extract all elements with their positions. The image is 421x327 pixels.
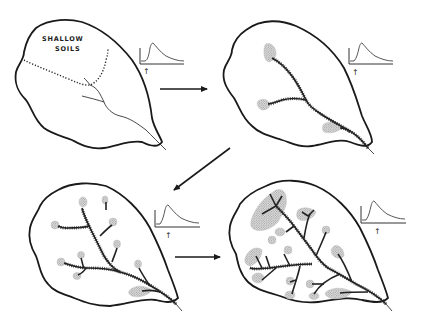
- rain-arrow-icon: ↑: [352, 68, 359, 77]
- arrow-panel2-to-panel3: [174, 148, 230, 190]
- branch: [316, 232, 326, 256]
- source-area: [284, 246, 292, 254]
- tributary-small: [78, 268, 86, 275]
- source-area: [102, 196, 108, 204]
- shallow-label: SHALLOW: [42, 35, 84, 43]
- rain-arrow-icon: ↑: [374, 227, 381, 236]
- panel-1-shallow-soils: SHALLOW SOILS ↑: [15, 20, 184, 150]
- source-area: [78, 252, 85, 259]
- source-area: [114, 240, 121, 248]
- tributary-small: [100, 225, 112, 236]
- west-tributary-line: [250, 264, 312, 269]
- outlet: [386, 304, 392, 311]
- source-area: [285, 291, 295, 299]
- upper-stream: [84, 78, 90, 85]
- outlet: [368, 148, 374, 154]
- watershed-diagram: SHALLOW SOILS ↑ ↑: [0, 0, 421, 327]
- hydrograph-curve: [141, 43, 184, 61]
- source-area: [57, 258, 65, 266]
- source-area: [79, 197, 87, 207]
- panel-2-early-expansion: ↑: [223, 21, 393, 154]
- main-stream: [90, 85, 166, 150]
- hydrograph-axes: [155, 210, 200, 227]
- hydrograph-curve: [362, 201, 405, 220]
- shallow-soils-boundary: [24, 48, 108, 85]
- rain-arrow-icon: ↑: [143, 67, 150, 76]
- source-area: [268, 236, 276, 244]
- source-area: [135, 260, 142, 268]
- hydrograph-axes: [361, 206, 406, 223]
- source-area: [109, 218, 117, 226]
- source-area: [129, 286, 152, 297]
- hydrograph-curve: [350, 43, 393, 61]
- hydrograph-axes: [349, 48, 393, 64]
- source-area: [325, 288, 352, 299]
- source-area: [275, 228, 285, 236]
- west-tributary-line: [268, 99, 306, 105]
- outlet: [176, 304, 182, 311]
- source-area: [252, 273, 264, 283]
- panel-4-full-expansion: ↑: [229, 181, 406, 311]
- south-tributary-line: [340, 128, 350, 132]
- hydrograph-axes: [140, 48, 184, 64]
- hydrograph-inset: ↑: [361, 201, 406, 236]
- source-area: [51, 221, 59, 229]
- branch: [262, 268, 276, 280]
- watershed-outline: [15, 20, 162, 148]
- hydrograph-inset: ↑: [140, 43, 184, 76]
- hydrograph-curve: [156, 205, 199, 224]
- branch: [340, 292, 368, 293]
- branch: [286, 226, 294, 232]
- hydrograph-inset: ↑: [349, 43, 393, 77]
- rain-arrow-icon: ↑: [165, 231, 172, 240]
- branch: [266, 256, 270, 268]
- soils-label: SOILS: [55, 45, 80, 53]
- tributary-stream: [82, 96, 104, 102]
- source-area: [331, 246, 344, 259]
- panel-3-mid-expansion: ↑: [29, 183, 200, 311]
- tributary-small: [112, 248, 117, 262]
- hydrograph-inset: ↑: [155, 205, 200, 240]
